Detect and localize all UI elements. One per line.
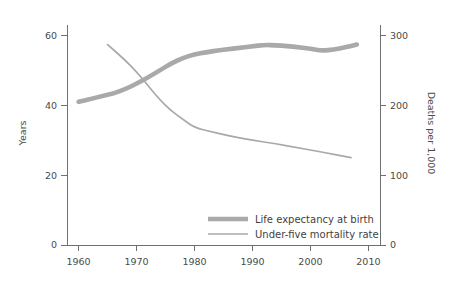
- left-axis-title: Years: [17, 120, 28, 146]
- chart-legend: Life expectancy at birthUnder-five morta…: [208, 214, 379, 240]
- bottom-axis: 196019701980199020002010: [66, 245, 380, 267]
- left-axis-ticks: [61, 35, 67, 245]
- left-tick-label: 0: [51, 239, 57, 250]
- data-series-group: [79, 45, 357, 158]
- left-axis-tick-labels: 0204060: [45, 30, 57, 251]
- legend-label-1: Life expectancy at birth: [255, 214, 374, 225]
- chart-container: 0204060 0100200300 196019701980199020002…: [0, 0, 452, 293]
- left-tick-label: 20: [45, 170, 57, 181]
- series-line-1: [79, 45, 357, 102]
- left-tick-label: 60: [45, 30, 57, 41]
- left-axis: 0204060: [45, 25, 67, 250]
- left-tick-label: 40: [45, 100, 57, 111]
- bottom-tick-label: 1960: [66, 256, 90, 267]
- series-line-2: [108, 45, 351, 158]
- right-axis-title: Deaths per 1,000: [426, 92, 437, 175]
- right-axis-ticks: [380, 35, 386, 245]
- right-tick-label: 0: [390, 239, 396, 250]
- right-tick-label: 200: [390, 100, 408, 111]
- right-axis: 0100200300: [380, 25, 408, 250]
- line-chart: 0204060 0100200300 196019701980199020002…: [0, 0, 452, 293]
- right-tick-label: 100: [390, 170, 408, 181]
- bottom-tick-label: 1980: [182, 256, 206, 267]
- bottom-axis-ticks: [79, 245, 369, 251]
- legend-label-2: Under-five mortality rate: [255, 229, 379, 240]
- bottom-tick-label: 2010: [356, 256, 380, 267]
- bottom-axis-tick-labels: 196019701980199020002010: [66, 256, 380, 267]
- right-axis-tick-labels: 0100200300: [390, 30, 408, 251]
- bottom-tick-label: 1990: [240, 256, 264, 267]
- bottom-tick-label: 1970: [124, 256, 148, 267]
- bottom-tick-label: 2000: [298, 256, 322, 267]
- right-tick-label: 300: [390, 30, 408, 41]
